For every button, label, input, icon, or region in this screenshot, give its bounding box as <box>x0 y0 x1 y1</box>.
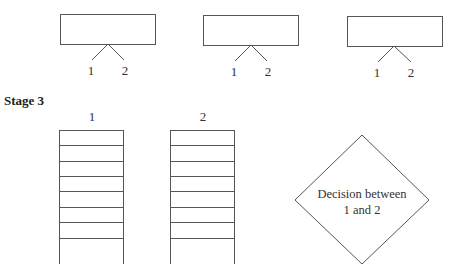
branch-line-left <box>92 44 108 60</box>
branch-label-2: 2 <box>265 64 272 79</box>
column-label: 2 <box>200 109 207 124</box>
box-rect <box>61 15 156 45</box>
decision-text-line2: 1 and 2 <box>344 203 381 217</box>
stage3-title: Stage 3 <box>4 93 45 108</box>
branch-line-right <box>108 44 124 60</box>
stage3-column-1: 1 <box>59 109 124 264</box>
branch-label-2: 2 <box>408 65 415 80</box>
box-rect <box>204 16 299 46</box>
stage2-box-3: 1 2 <box>348 17 443 81</box>
stage2-box-1: 1 2 <box>61 15 156 79</box>
branch-label-1: 1 <box>231 64 238 79</box>
branch-line-left <box>235 45 251 61</box>
diagram-canvas: 1 2 1 2 1 2 Stage 3 1 2 <box>0 0 453 264</box>
stage2-box-2: 1 2 <box>204 16 299 80</box>
branch-label-2: 2 <box>122 63 129 78</box>
decision-diamond: Decision between 1 and 2 <box>295 135 429 264</box>
stage3-column-2: 2 <box>170 109 235 264</box>
branch-label-1: 1 <box>374 65 381 80</box>
branch-line-right <box>394 46 411 62</box>
decision-text-line1: Decision between <box>317 187 407 201</box>
box-rect <box>348 17 443 47</box>
branch-label-1: 1 <box>88 63 95 78</box>
column-label: 1 <box>89 109 96 124</box>
branch-line-left <box>378 46 394 62</box>
branch-line-right <box>251 45 267 61</box>
